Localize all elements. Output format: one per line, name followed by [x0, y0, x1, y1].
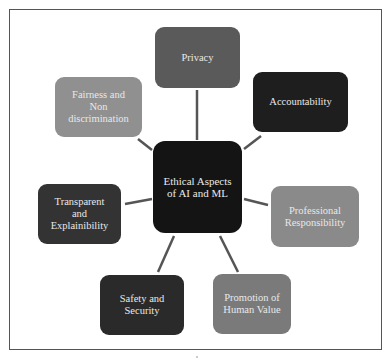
node-safety: Safety and Security — [100, 275, 184, 335]
node-fairness-line-2: Non — [89, 101, 107, 113]
edge-fairness — [138, 139, 152, 150]
node-fairness-line-1: Fairness and — [72, 89, 125, 101]
node-transparent: Transparent and Explainibility — [38, 184, 121, 244]
node-professional: Professional Responsibility — [271, 186, 359, 247]
node-accountability-label: Accountability — [269, 96, 331, 108]
edge-promotion — [220, 236, 238, 272]
node-professional-line-2: Responsibility — [285, 217, 346, 229]
node-promotion-line-2: Human Value — [223, 304, 280, 316]
node-center-line-1: Ethical Aspects — [163, 175, 231, 187]
node-transparent-line-1: Transparent — [55, 196, 105, 208]
node-safety-line-1: Safety and — [120, 293, 165, 305]
node-fairness-line-3: discrimination — [68, 113, 129, 125]
node-transparent-line-3: Explainibility — [51, 220, 109, 232]
edge-professional — [244, 199, 268, 205]
node-center-line-2: of AI and ML — [167, 187, 228, 199]
node-promotion-line-1: Promotion of — [224, 292, 280, 304]
node-professional-line-1: Professional — [289, 205, 341, 217]
edge-safety — [158, 236, 174, 272]
node-privacy-label: Privacy — [181, 52, 213, 64]
node-accountability: Accountability — [253, 72, 348, 132]
scan-artifact-dot — [196, 356, 198, 358]
edge-transparent — [125, 199, 152, 204]
node-fairness: Fairness and Non discrimination — [55, 77, 142, 137]
node-privacy: Privacy — [155, 27, 240, 88]
node-promotion: Promotion of Human Value — [213, 274, 291, 334]
edge-accountability — [244, 136, 261, 149]
node-transparent-line-2: and — [72, 208, 87, 220]
node-center: Ethical Aspects of AI and ML — [153, 141, 242, 233]
node-safety-line-2: Security — [125, 305, 160, 317]
